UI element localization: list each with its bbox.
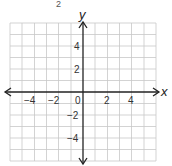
y-tick-neg2: −2 (67, 110, 79, 121)
y-tick-neg4: −4 (67, 133, 79, 144)
x-tick-2: 2 (104, 95, 110, 106)
x-tick-neg2: −2 (48, 95, 60, 106)
y-tick-2: 2 (74, 64, 80, 75)
y-axis-label: y (78, 7, 87, 22)
coordinate-plane: 2 y x −4 −2 0 2 4 4 2 −2 −4 (0, 0, 172, 166)
x-tick-neg4: −4 (24, 95, 36, 106)
x-tick-4: 4 (128, 95, 134, 106)
x-tick-0: 0 (75, 95, 81, 106)
problem-number: 2 (56, 0, 61, 9)
x-axis-label: x (160, 84, 168, 99)
y-tick-4: 4 (74, 41, 80, 52)
